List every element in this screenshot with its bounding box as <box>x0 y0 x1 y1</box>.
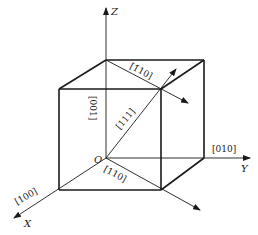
label-010: [010] <box>212 144 236 154</box>
origin-label: O <box>94 154 102 165</box>
vector-111 <box>106 69 176 158</box>
vector-1-10-top <box>106 60 188 103</box>
y-axis-label: Y <box>241 163 249 174</box>
x-axis-label: X <box>23 218 32 229</box>
vector-110-bottom <box>106 158 200 210</box>
label-001: [001] <box>88 96 98 120</box>
label-110-bottom: [110] <box>102 164 128 184</box>
z-axis-label: Z <box>110 6 119 17</box>
label-100: [100] <box>13 186 39 207</box>
label-111: [111] <box>114 106 137 131</box>
crystal-cube-diagram: Z Y X O [010] [100] [001] [111] [110] [1… <box>0 0 258 235</box>
x-axis <box>14 158 106 218</box>
